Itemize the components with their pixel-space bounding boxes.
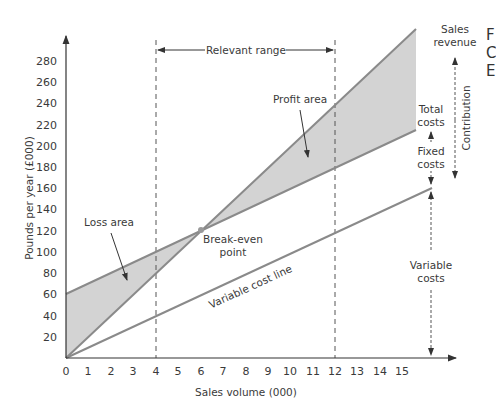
svg-text:10: 10 bbox=[283, 365, 297, 378]
svg-text:15: 15 bbox=[395, 365, 409, 378]
relevant-range-label: Relevant range bbox=[206, 44, 286, 56]
svg-text:13: 13 bbox=[350, 365, 364, 378]
svg-text:12: 12 bbox=[328, 365, 342, 378]
svg-text:280: 280 bbox=[36, 55, 57, 68]
svg-text:8: 8 bbox=[243, 365, 250, 378]
svg-text:7: 7 bbox=[220, 365, 227, 378]
break-even-label-2: point bbox=[220, 246, 247, 258]
svg-text:200: 200 bbox=[36, 140, 57, 153]
svg-text:14: 14 bbox=[373, 365, 387, 378]
svg-text:180: 180 bbox=[36, 161, 57, 174]
svg-text:140: 140 bbox=[36, 203, 57, 216]
svg-text:100: 100 bbox=[36, 246, 57, 259]
svg-text:11: 11 bbox=[306, 365, 320, 378]
loss-area-label: Loss area bbox=[84, 216, 134, 228]
svg-text:240: 240 bbox=[36, 97, 57, 110]
x-tick-labels: 0 1 2 3 4 5 6 7 8 9 10 11 12 13 14 15 bbox=[63, 365, 410, 378]
total-costs-line bbox=[66, 130, 416, 294]
svg-text:2: 2 bbox=[108, 365, 115, 378]
svg-text:40: 40 bbox=[43, 310, 57, 323]
svg-text:0: 0 bbox=[63, 365, 70, 378]
svg-text:6: 6 bbox=[198, 365, 205, 378]
variable-costs-label: Variable bbox=[410, 259, 453, 271]
svg-text:120: 120 bbox=[36, 225, 57, 238]
fixed-costs-label: Fixed bbox=[417, 145, 444, 157]
svg-text:260: 260 bbox=[36, 76, 57, 89]
cropped-caption-fragment-3: E bbox=[486, 62, 495, 80]
sales-revenue-label: Sales bbox=[441, 23, 469, 35]
total-costs-label: Total bbox=[418, 103, 444, 115]
svg-text:1: 1 bbox=[85, 365, 92, 378]
variable-costs-label-2: costs bbox=[417, 272, 444, 284]
cropped-caption-fragment-2: C bbox=[486, 44, 496, 62]
svg-text:60: 60 bbox=[43, 288, 57, 301]
x-axis-label: Sales volume (000) bbox=[195, 386, 297, 398]
sales-revenue-label-2: revenue bbox=[434, 36, 477, 48]
svg-text:4: 4 bbox=[153, 365, 160, 378]
svg-text:160: 160 bbox=[36, 182, 57, 195]
svg-text:20: 20 bbox=[43, 331, 57, 344]
cropped-caption-fragment-1: F bbox=[486, 26, 495, 44]
svg-text:5: 5 bbox=[175, 365, 182, 378]
svg-text:9: 9 bbox=[265, 365, 272, 378]
sales-revenue-line bbox=[66, 29, 416, 358]
y-tick-labels: 20 40 60 80 100 120 140 160 180 200 220 … bbox=[36, 55, 57, 344]
y-axis-label: Pounds per year (£000) bbox=[23, 136, 35, 260]
profit-area-label: Profit area bbox=[273, 93, 327, 105]
svg-text:220: 220 bbox=[36, 119, 57, 132]
svg-text:3: 3 bbox=[130, 365, 137, 378]
total-costs-label-2: costs bbox=[417, 116, 444, 128]
svg-text:80: 80 bbox=[43, 267, 57, 280]
break-even-label: Break-even bbox=[203, 233, 263, 245]
contribution-label: Contribution bbox=[460, 85, 472, 150]
fixed-costs-label-2: costs bbox=[417, 158, 444, 170]
